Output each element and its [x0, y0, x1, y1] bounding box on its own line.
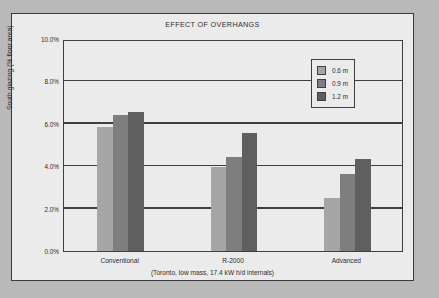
chart-legend: 0.6 m0.9 m1.2 m — [311, 59, 355, 108]
x-axis-tick-label: Advanced — [332, 257, 361, 264]
legend-label: 0.9 m — [332, 80, 348, 87]
legend-item: 1.2 m — [317, 90, 348, 103]
y-axis-tick-label: 2.0% — [17, 206, 59, 213]
legend-item: 0.6 m — [317, 64, 348, 77]
bar-r-2000-09 — [226, 157, 242, 251]
bar-conventional-06 — [97, 127, 113, 251]
y-axis-title: South glazing (% floor area) — [6, 0, 13, 110]
x-axis-tick-label: Conventional — [100, 257, 139, 264]
x-axis-tick-label: R-2000 — [222, 257, 244, 264]
legend-item: 0.9 m — [317, 77, 348, 90]
y-axis-tick-label: 6.0% — [17, 121, 59, 128]
y-axis-tick-label: 4.0% — [17, 163, 59, 170]
bar-advanced-06 — [324, 198, 340, 251]
legend-swatch-icon — [317, 79, 326, 88]
legend-swatch-icon — [317, 66, 326, 75]
chart-figure: EFFECT OF OVERHANGS South glazing (% flo… — [0, 0, 439, 298]
bar-advanced-12 — [355, 159, 371, 251]
x-axis-caption: (Toronto, low mass, 17.4 kW h/d internal… — [12, 269, 413, 276]
bar-conventional-12 — [128, 112, 144, 251]
legend-label: 1.2 m — [332, 93, 348, 100]
y-axis-tick-label: 10.0% — [17, 36, 59, 43]
bar-r-2000-12 — [242, 133, 258, 251]
bar-r-2000-06 — [211, 167, 227, 251]
bar-conventional-09 — [113, 115, 129, 251]
legend-label: 0.6 m — [332, 67, 348, 74]
legend-swatch-icon — [317, 92, 326, 101]
bar-advanced-09 — [340, 174, 356, 251]
chart-card: EFFECT OF OVERHANGS South glazing (% flo… — [11, 13, 414, 281]
y-axis-tick-label: 0.0% — [17, 248, 59, 255]
chart-title: EFFECT OF OVERHANGS — [12, 20, 413, 29]
y-axis-tick-label: 8.0% — [17, 78, 59, 85]
